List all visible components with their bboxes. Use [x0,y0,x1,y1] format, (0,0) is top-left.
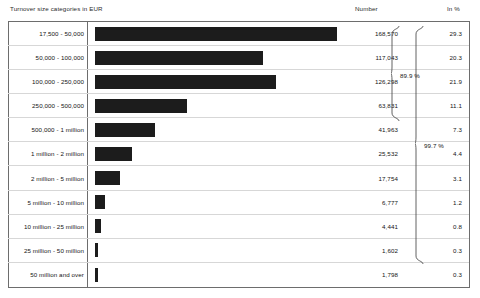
bar-track [95,142,469,165]
table-row: 10 million - 25 million4,4410.8 [8,215,469,239]
bar [95,99,187,113]
row-percent-value: 0.3 [428,239,462,262]
table-row: 25 million - 50 million1,6020.3 [8,239,469,263]
bar-track [95,118,469,141]
bar [95,123,155,137]
row-category-label: 250,000 - 500,000 [32,94,84,117]
row-category-label: 2 million - 5 million [31,166,84,189]
row-percent-value: 7.3 [428,118,462,141]
header-number: Number [355,5,378,12]
row-percent-value: 11.1 [428,94,462,117]
bar [95,243,98,257]
bar [95,51,263,65]
row-category-label: 500,000 - 1 million [32,118,84,141]
bar [95,75,276,89]
row-category-label: 17,500 - 50,000 [39,22,84,45]
row-category-label: 10 million - 25 million [24,215,84,238]
bar-track [95,239,469,262]
bar [95,195,105,209]
bar-track [95,22,469,45]
row-percent-value: 29.3 [428,22,462,45]
bar [95,27,337,41]
bar-track [95,46,469,69]
row-number-value: 17,754 [350,166,398,189]
bar-track [95,166,469,189]
chart-page: Turnover size categories in EUR Number I… [0,0,480,298]
row-percent-value: 21.9 [428,70,462,93]
row-number-value: 6,777 [350,191,398,214]
row-number-value: 1,602 [350,239,398,262]
table-row: 5 million - 10 million6,7771.2 [8,191,469,215]
row-percent-value: 0.8 [428,215,462,238]
table-row: 1 million - 2 million25,5324.4 [8,142,469,166]
row-category-label: 50 million and over [30,263,84,287]
row-category-label: 5 million - 10 million [27,191,84,214]
row-number-value: 25,532 [350,142,398,165]
bar [95,147,132,161]
row-percent-value: 20.3 [428,46,462,69]
header-percent: In % [447,5,460,12]
bar-track [95,191,469,214]
bar [95,171,120,185]
row-category-label: 100,000 - 250,000 [32,70,84,93]
row-percent-value: 1.2 [428,191,462,214]
row-number-value: 4,441 [350,215,398,238]
row-percent-value: 3.1 [428,166,462,189]
row-category-label: 1 million - 2 million [31,142,84,165]
header-categories: Turnover size categories in EUR [10,5,103,12]
bar [95,268,98,282]
bar [95,219,101,233]
row-category-label: 25 million - 50 million [24,239,84,262]
bar-track [95,94,469,117]
bar-track [95,215,469,238]
table-row: 50 million and over1,7980.3 [8,263,469,287]
row-percent-value: 0.3 [428,263,462,287]
table-row: 2 million - 5 million17,7543.1 [8,166,469,190]
row-category-label: 50,000 - 100,000 [36,46,84,69]
row-number-value: 1,798 [350,263,398,287]
bar-track [95,263,469,287]
brace-lower-label: 99.7 % [424,142,444,149]
